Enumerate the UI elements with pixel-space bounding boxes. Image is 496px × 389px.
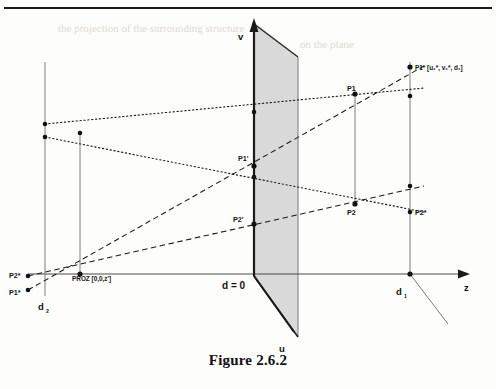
p1-star-left-label: P1* — [9, 288, 21, 297]
p1-label: P1 — [347, 84, 356, 93]
svg-text:2: 2 — [46, 308, 49, 314]
p1-prime-label: P1' — [238, 154, 249, 163]
z-axis-arrowhead — [458, 270, 470, 279]
dotted-ray-upper — [45, 88, 424, 124]
marker-d1-upper-dot — [408, 94, 413, 99]
marker-p2star-right — [408, 210, 413, 215]
marker-p1star-left — [26, 288, 31, 293]
marker-p2 — [352, 201, 357, 206]
marker-plane-mid-dot — [252, 175, 257, 180]
figure-page: the projection of the surrounding struct… — [0, 0, 496, 389]
d1-label: d 1 — [396, 286, 407, 299]
marker-p2star-left — [26, 274, 31, 279]
p2-prime-label: P2' — [233, 215, 244, 224]
figure-caption: Figure 2.6.2 — [0, 352, 496, 369]
ray-p2star-left-to-p2-right — [28, 186, 424, 276]
p2-label: P2 — [347, 208, 356, 217]
d2-label: d 2 — [38, 301, 49, 314]
marker-p2-prime — [251, 221, 256, 226]
svg-text:d: d — [396, 286, 402, 297]
marker-dotted-left-lower — [43, 135, 48, 140]
z-axis-label: z — [464, 282, 469, 293]
svg-text:d: d — [38, 301, 44, 312]
marker-dotted-left-upper — [43, 122, 48, 127]
d1-oblique-line — [410, 274, 448, 324]
v-axis-label: v — [238, 31, 244, 42]
svg-text:1: 1 — [404, 293, 407, 299]
projection-diagram: v u z d = 0 d 1 d 2 PROZ [0,0,z'] P1* P2… — [0, 0, 496, 389]
marker-p1star-right — [407, 64, 412, 69]
marker-d1-mid-dot — [408, 184, 413, 189]
marker-dotted-proz-top — [78, 131, 83, 136]
p1-star-right-label: P1* [u₁*, v₁*, d₁] — [415, 64, 463, 72]
p2-star-right-label: P2* — [415, 208, 427, 217]
ray-p1star-left-to-p1star-right — [28, 66, 424, 290]
dotted-ray-lower — [45, 137, 424, 212]
p2-star-left-label: P2* — [9, 271, 21, 280]
marker-d1-on-axis — [407, 271, 412, 276]
marker-plane-upper-dot — [252, 110, 257, 115]
proz-label: PROZ [0,0,z'] — [72, 275, 111, 283]
marker-p1-prime — [251, 163, 256, 168]
d-zero-label: d = 0 — [222, 280, 246, 291]
